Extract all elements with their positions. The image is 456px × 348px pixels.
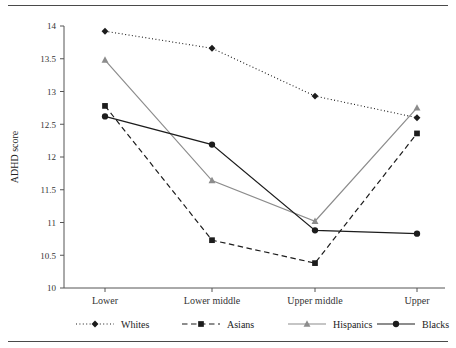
y-axis-title: ADHD score [9,130,20,183]
y-axis-ticks: 1010.51111.51212.51313.514 [40,21,64,293]
legend-marker-asians [198,321,204,327]
series-whites [102,28,421,121]
data-point-asians-0 [102,103,108,109]
legend-marker-whites [92,321,99,328]
legend-item-whites[interactable]: Whites [76,319,149,330]
y-tick-label: 13 [47,87,57,97]
y-tick-label: 13.5 [40,54,56,64]
y-axis-title-text: ADHD score [9,130,20,183]
y-tick-label: 10 [47,283,57,293]
series-blacks [102,113,420,237]
data-point-whites-0 [102,28,109,35]
y-tick-label: 11 [47,218,56,228]
data-point-whites-2 [312,93,319,100]
y-tick-label: 12 [47,152,56,162]
x-tick-label: Lower [92,295,119,306]
y-tick-label: 14 [47,21,57,31]
series-hispanics [102,56,421,224]
legend-item-asians[interactable]: Asians [182,319,254,330]
data-point-blacks-0 [102,113,108,119]
figure-container: 1010.51111.51212.51313.514 LowerLower mi… [0,0,456,348]
data-point-blacks-3 [414,230,420,236]
data-point-asians-1 [209,237,215,243]
data-point-blacks-2 [312,227,318,233]
line-chart: 1010.51111.51212.51313.514 LowerLower mi… [0,0,456,348]
legend-label-blacks: Blacks [422,319,449,330]
y-tick-label: 12.5 [40,120,56,130]
legend-label-asians: Asians [227,319,254,330]
data-point-hispanics-0 [102,56,109,62]
data-point-whites-1 [209,45,216,52]
series-line-blacks [105,116,417,233]
data-point-hispanics-3 [414,104,421,110]
data-point-blacks-1 [209,141,215,147]
legend-marker-blacks [393,321,399,327]
data-point-asians-3 [414,131,420,137]
x-tick-label: Lower middle [184,295,241,306]
data-point-whites-3 [414,114,421,121]
series-line-asians [105,106,417,263]
chart-axes [64,26,445,288]
data-point-asians-2 [312,260,318,266]
chart-series [102,28,421,266]
legend-label-hispanics: Hispanics [333,319,373,330]
series-asians [102,103,420,266]
legend-item-blacks[interactable]: Blacks [377,319,449,330]
legend-item-hispanics[interactable]: Hispanics [288,319,373,330]
chart-legend: WhitesAsiansHispanicsBlacks [76,319,449,330]
y-tick-label: 11.5 [41,185,57,195]
series-line-whites [105,31,417,117]
legend-label-whites: Whites [121,319,149,330]
y-tick-label: 10.5 [40,251,56,261]
x-tick-label: Upper [405,295,431,306]
x-axis-ticks: LowerLower middleUpper middleUpper [92,288,430,306]
series-line-hispanics [105,60,417,221]
x-tick-label: Upper middle [287,295,343,306]
